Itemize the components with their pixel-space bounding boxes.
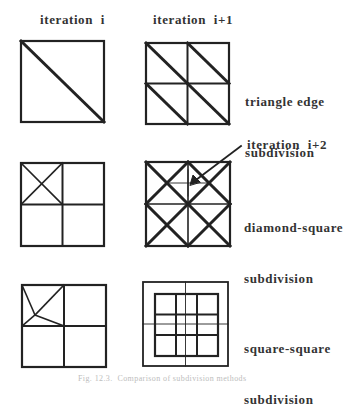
square-square-label-line1: square-square [244,340,331,357]
diamond-square-label-line2: subdivision [244,270,343,287]
diamond-square-label-line1: diamond-square [244,219,343,236]
square-square-label-line2: subdivision [244,391,331,408]
triangle-edge-iteration-i-plus-1 [146,43,229,124]
iteration-i-plus-2-annotation: iteration i+2 [247,136,327,153]
diamond-square-iteration-i-plus-1 [146,162,230,246]
triangle-edge-label-line1: triangle edge [245,93,325,110]
iteration-i-plus-2-arrow [190,146,241,185]
triangle-edge-label: triangle edge subdivision [245,59,325,178]
square-square-label: square-square subdivision [244,306,331,408]
diamond-square-label: diamond-square subdivision [244,185,343,304]
square-square-iteration-i-plus-1 [143,282,228,366]
diamond-square-iteration-i [21,163,104,246]
square-square-iteration-i [22,285,106,367]
triangle-edge-iteration-i [21,41,104,122]
figure-caption: Fig. 12.3. Comparison of subdivision met… [78,374,246,383]
